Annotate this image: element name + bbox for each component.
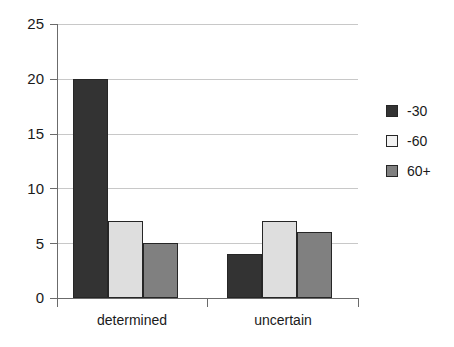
bar-uncertain--60 (262, 221, 297, 298)
y-tick-mark-25 (50, 24, 57, 25)
legend-label-minus60: -60 (407, 134, 427, 148)
bar-determined-60plus (143, 243, 178, 298)
legend-swatch-icon-minus30 (386, 105, 398, 117)
x-tick-mark-start (57, 299, 58, 307)
x-tick-mark-middle (207, 299, 208, 307)
plot-area (57, 24, 358, 298)
legend-label-minus30: -30 (407, 104, 427, 118)
legend-label-60plus: 60+ (407, 164, 431, 178)
y-tick-label-15: 15 (14, 126, 44, 141)
gridline-25 (57, 24, 358, 25)
y-tick-label-10: 10 (14, 181, 44, 196)
y-tick-mark-5 (50, 243, 57, 244)
bar-determined--30 (73, 79, 108, 298)
y-tick-mark-10 (50, 188, 57, 189)
y-axis-line (57, 24, 58, 299)
y-tick-mark-15 (50, 134, 57, 135)
y-tick-label-25: 25 (14, 16, 44, 31)
y-tick-label-20: 20 (14, 71, 44, 86)
y-tick-mark-20 (50, 79, 57, 80)
x-tick-mark-end (358, 299, 359, 307)
y-tick-mark-0 (50, 298, 57, 299)
bar-chart: 25 20 15 10 5 0 determined uncertain -30… (0, 0, 454, 347)
x-category-label-uncertain: uncertain (208, 312, 358, 328)
bar-uncertain-60plus (297, 232, 332, 298)
legend-swatch-icon-60plus (386, 165, 398, 177)
bar-determined--60 (108, 221, 143, 298)
bar-uncertain--30 (227, 254, 262, 298)
legend: -30 -60 60+ (386, 96, 454, 186)
x-category-label-determined: determined (57, 312, 207, 328)
legend-swatch-icon-minus60 (386, 135, 398, 147)
x-axis-line (57, 298, 359, 299)
y-tick-label-5: 5 (14, 236, 44, 251)
legend-item-minus60: -60 (386, 126, 454, 156)
legend-item-minus30: -30 (386, 96, 454, 126)
legend-item-60plus: 60+ (386, 156, 454, 186)
y-tick-label-0: 0 (14, 290, 44, 305)
